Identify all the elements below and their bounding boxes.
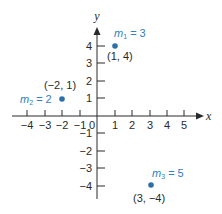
- point-m1: m1 = 3 (1, 4): [107, 27, 146, 62]
- x-axis-arrow-icon: [196, 113, 204, 120]
- mass-label-m2: m2 = 2: [20, 93, 52, 106]
- y-tick-label: −4: [79, 180, 92, 192]
- y-tick-label: −1: [79, 127, 92, 139]
- y-tick-label: −2: [79, 145, 92, 157]
- point-m2: m2 = 2 (−2, 1): [20, 79, 76, 106]
- x-tick-label: −4: [21, 119, 34, 131]
- point-marker: [112, 43, 118, 49]
- y-axis: [94, 27, 106, 199]
- coord-label-m1: (1, 4): [107, 50, 133, 62]
- y-tick-label: −3: [79, 162, 92, 174]
- y-tick-label: 2: [86, 75, 92, 87]
- x-tick-label: −3: [39, 119, 52, 131]
- x-tick-labels: −4 −3 −2 −1 0 1 2 3 4 5: [21, 119, 187, 131]
- point-marker: [148, 182, 154, 188]
- point-marker: [59, 96, 65, 102]
- x-tick-label: 4: [164, 119, 170, 131]
- y-tick-label: 1: [86, 92, 92, 104]
- mass-label-m3: m3 = 5: [152, 167, 184, 180]
- x-tick-label: 2: [129, 119, 135, 131]
- y-tick-label: 3: [86, 57, 92, 69]
- point-m3: m3 = 5 (3, −4): [133, 167, 184, 204]
- x-tick-label: 1: [112, 119, 118, 131]
- x-axis-label: x: [205, 109, 212, 123]
- x-tick-label: −2: [56, 119, 69, 131]
- x-tick-label: 3: [147, 119, 153, 131]
- coord-label-m3: (3, −4): [133, 192, 165, 204]
- y-axis-arrow-icon: [94, 27, 101, 35]
- x-tick-label: 5: [181, 119, 187, 131]
- coordinate-plane: x −4 −3 −2 −1 0 1 2 3 4 5 y 1 2 3 4: [0, 0, 222, 214]
- coord-label-m2: (−2, 1): [44, 79, 76, 91]
- mass-label-m1: m1 = 3: [114, 27, 146, 40]
- y-axis-label: y: [93, 9, 100, 23]
- y-tick-label: 4: [86, 40, 92, 52]
